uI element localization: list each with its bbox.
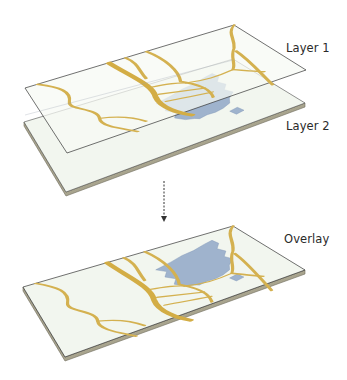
overlay-slab-surface	[23, 226, 305, 357]
overlay-diagram	[0, 0, 347, 380]
layer2-label: Layer 2	[286, 119, 330, 133]
down-arrow	[161, 181, 167, 222]
layer1-label: Layer 1	[286, 41, 330, 55]
arrow-head-icon	[161, 216, 167, 222]
overlay-slab	[23, 226, 305, 361]
overlay-label: Overlay	[284, 232, 329, 246]
